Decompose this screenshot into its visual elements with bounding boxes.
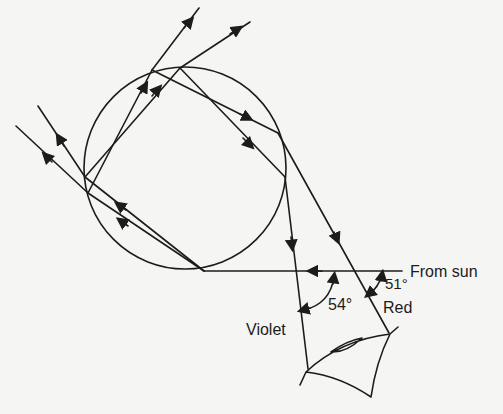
raindrop-circle	[84, 67, 286, 269]
label-violet: Violet	[246, 322, 286, 338]
ray-b	[88, 193, 204, 271]
violet-ray	[285, 177, 308, 369]
eye	[300, 327, 398, 397]
rainbow-diagram: From sun 51° 54° Red Violet	[0, 0, 503, 414]
angle-arc-red	[370, 275, 382, 293]
ray-f	[180, 68, 285, 177]
ray-c	[85, 68, 180, 177]
diagram-canvas	[0, 0, 503, 414]
label-angle-violet: 54°	[328, 297, 352, 313]
label-from-sun: From sun	[410, 264, 478, 280]
ray-d	[88, 70, 152, 193]
label-red: Red	[383, 300, 412, 316]
label-angle-red: 51°	[385, 276, 408, 291]
exit-ray-left-2	[16, 126, 88, 193]
ray-a	[85, 177, 204, 271]
exit-ray-top-2	[180, 22, 250, 68]
ray-e	[152, 70, 278, 133]
